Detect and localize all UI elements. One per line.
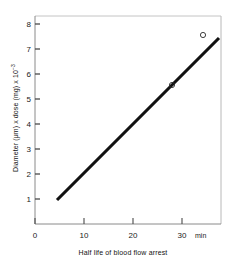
y-tick-label-1: 1 bbox=[27, 195, 32, 204]
y-tick-label-3: 3 bbox=[27, 145, 32, 154]
x-tick-label-30: 30 bbox=[178, 231, 187, 240]
svg-text:Diameter (μm) x dose (mg) x 10: Diameter (μm) x dose (mg) x 10−3 bbox=[10, 64, 20, 172]
y-axis-title: Diameter (μm) x dose (mg) x 10−3 bbox=[10, 64, 20, 172]
x-axis-title: Half life of blood flow arrest bbox=[79, 249, 168, 256]
y-tick-label-4: 4 bbox=[27, 120, 32, 129]
y-tick-label-6: 6 bbox=[27, 70, 32, 79]
y-tick-label-2: 2 bbox=[27, 170, 32, 179]
y-tick-label-5: 5 bbox=[27, 95, 32, 104]
y-tick-label-8: 8 bbox=[27, 20, 32, 29]
y-tick-label-7: 7 bbox=[27, 45, 32, 54]
x-tick-label-10: 10 bbox=[80, 231, 89, 240]
y-axis-title-main: Diameter (μm) x dose (mg) x 10 bbox=[12, 70, 20, 172]
y-axis-title-exponent: −3 bbox=[10, 64, 16, 70]
x-tick-label-20: 20 bbox=[129, 231, 138, 240]
x-axis-unit-label: min bbox=[195, 232, 206, 239]
x-tick-label-0: 0 bbox=[33, 231, 38, 240]
scatter-plot-svg: 8 7 6 5 4 3 2 1 0 10 20 3 bbox=[0, 0, 235, 268]
chart-figure: 8 7 6 5 4 3 2 1 0 10 20 3 bbox=[0, 0, 235, 268]
